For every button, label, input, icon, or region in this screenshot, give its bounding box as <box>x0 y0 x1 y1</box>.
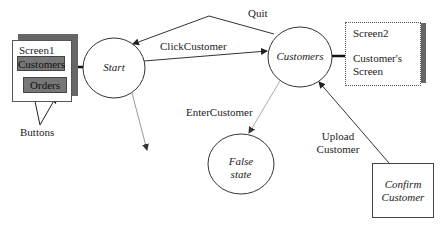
click-customer-edge-label: ClickCustomer <box>160 40 227 53</box>
false-state-label-2: state <box>221 168 261 181</box>
enter-customer-edge <box>249 81 280 133</box>
confirm-customer-label-1: Confirm <box>372 178 434 191</box>
screen2-caption-2: Screen <box>353 65 383 78</box>
buttons-annotation: Buttons <box>20 126 54 139</box>
upload-customer-edge-label-2: Customer <box>316 143 360 156</box>
false-state-label-1: False <box>221 155 261 168</box>
enter-customer-edge-label: EnterCustomer <box>186 106 253 119</box>
start-outgoing-edge <box>132 93 147 150</box>
quit-edge-label: Quit <box>248 7 268 20</box>
orders-button[interactable]: Orders <box>23 77 67 93</box>
upload-customer-edge-label-1: Upload <box>316 130 360 143</box>
screen2-title: Screen2 <box>353 27 388 40</box>
customers-state-label: Customers <box>270 50 330 63</box>
confirm-customer-label-2: Customer <box>372 191 434 204</box>
customers-button[interactable]: Customers <box>17 56 65 71</box>
start-state-label: Start <box>94 61 134 74</box>
screen2-caption-1: Customer's <box>353 52 402 65</box>
